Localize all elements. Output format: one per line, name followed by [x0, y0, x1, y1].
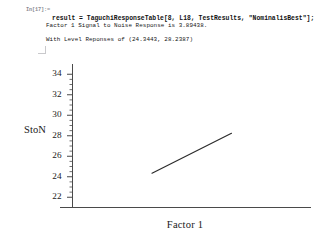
plot-canvas: [0, 52, 328, 238]
input-prompt-label: In[17]:=: [26, 6, 50, 13]
output-text-level-responses: With Level Reponses of (24.3443, 28.2387…: [46, 36, 193, 43]
response-line-series: [152, 133, 232, 173]
output-text-signal-to-noise: Factor 1 Signal to Noise Response is 3.8…: [46, 22, 207, 29]
y-axis-tick-label: 32: [40, 89, 62, 99]
y-axis-tick-label: 28: [40, 130, 62, 140]
y-axis-tick-label: 34: [40, 68, 62, 78]
y-axis-tick-label: 22: [40, 191, 62, 201]
notebook-input-cell[interactable]: In[17]:=result = TaguchiResponseTable[8,…: [0, 0, 328, 52]
input-code-text[interactable]: result = TaguchiResponseTable[8, L18, Te…: [52, 15, 314, 22]
y-axis-tick-label: 26: [40, 150, 62, 160]
factor-response-plot: StoN Factor 1 34323028262422: [0, 52, 328, 238]
y-axis-tick-label: 30: [40, 109, 62, 119]
y-axis-major-ticks: [67, 74, 73, 197]
y-axis-tick-label: 24: [40, 171, 62, 181]
x-axis-title: Factor 1: [115, 219, 255, 230]
